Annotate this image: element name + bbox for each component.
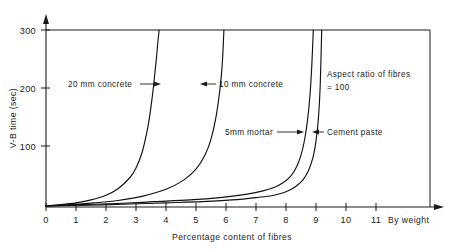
series-curve-5mm-mortar xyxy=(46,30,313,206)
x-tick-label-4: 4 xyxy=(163,215,168,225)
x-axis-suffix-label: By weight xyxy=(388,215,429,225)
x-axis-arrowhead xyxy=(434,204,444,210)
x-tick-label-2: 2 xyxy=(103,215,108,225)
annotation-label-cement-paste: Cement paste xyxy=(327,128,383,137)
annotation-5mm-mortar: 5mm mortar xyxy=(225,128,304,137)
x-tick-label-3: 3 xyxy=(133,215,138,225)
series-curve-10mm-concrete xyxy=(46,30,224,206)
aspect-ratio-note-line1: Aspect ratio of fibres xyxy=(327,70,410,79)
y-tick-label-200: 200 xyxy=(20,84,36,94)
x-axis-title: Percentage content of fibres xyxy=(172,232,292,242)
y-tick-label-300: 300 xyxy=(20,26,36,36)
annotation-cement-paste: Cement paste xyxy=(312,128,383,137)
x-tick-label-0: 0 xyxy=(43,215,48,225)
aspect-ratio-note-line2: = 100 xyxy=(327,83,350,92)
y-axis-title: V-B time (sec) xyxy=(8,88,18,148)
x-tick-label-1: 1 xyxy=(73,215,78,225)
x-tick-label-9: 9 xyxy=(313,215,318,225)
x-tick-label-11: 11 xyxy=(371,215,381,225)
x-tick-label-7: 7 xyxy=(253,215,258,225)
aspect-ratio-note: Aspect ratio of fibres = 100 xyxy=(327,70,410,92)
y-axis-arrowhead xyxy=(43,14,49,24)
figure-container: 100 200 300 0 1 2 3 4 5 6 7 8 9 10 11 By… xyxy=(0,0,452,252)
annotation-label-5mm-mortar: 5mm mortar xyxy=(225,128,273,137)
series-curve-20mm-concrete xyxy=(46,30,159,206)
y-tick-label-100: 100 xyxy=(20,142,36,152)
annotation-20mm-concrete: 20 mm concrete xyxy=(68,80,161,89)
x-tick-label-6: 6 xyxy=(223,215,228,225)
x-tick-label-8: 8 xyxy=(283,215,288,225)
chart-svg: 100 200 300 0 1 2 3 4 5 6 7 8 9 10 11 By… xyxy=(0,0,452,252)
annotation-10mm-concrete: 10 mm concrete xyxy=(200,80,283,89)
annotation-label-20mm-concrete: 20 mm concrete xyxy=(68,80,132,89)
plot-frame xyxy=(46,30,430,207)
x-tick-label-5: 5 xyxy=(193,215,198,225)
x-tick-label-10: 10 xyxy=(341,215,352,225)
annotation-label-10mm-concrete: 10 mm concrete xyxy=(219,80,283,89)
